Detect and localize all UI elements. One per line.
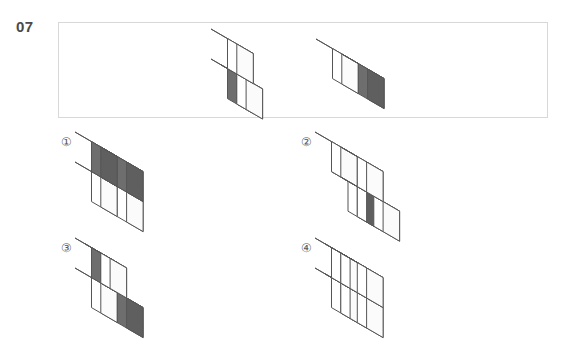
stimulus-figure-2 (314, 37, 386, 111)
cube-face (368, 69, 385, 109)
cube-face (341, 147, 358, 187)
option-label-2: ② (301, 136, 312, 148)
isometric-cube-figure (313, 236, 385, 340)
page-title: 07 (16, 18, 34, 35)
option-figure-1 (73, 130, 145, 234)
isometric-cube-figure (313, 130, 402, 243)
isometric-cube-figure (209, 27, 265, 121)
stimulus-figure-1 (209, 27, 265, 121)
isometric-cube-figure (73, 236, 145, 340)
cube-face (342, 54, 359, 94)
answer-option-3[interactable]: ③ (55, 236, 295, 341)
option-figure-4 (313, 236, 385, 340)
option-figure-2 (313, 130, 402, 243)
option-label-4: ④ (301, 242, 312, 254)
isometric-cube-figure (314, 37, 386, 111)
option-label-3: ③ (61, 242, 72, 254)
cube-face (246, 79, 263, 119)
answer-option-4[interactable]: ④ (295, 236, 535, 341)
option-figure-3 (73, 236, 145, 340)
option-label-1: ① (61, 136, 72, 148)
cube-face (127, 298, 144, 338)
stimulus-box (58, 22, 548, 118)
isometric-cube-figure (73, 130, 145, 234)
answer-option-1[interactable]: ① (55, 130, 295, 235)
answer-option-2[interactable]: ② (295, 130, 535, 235)
